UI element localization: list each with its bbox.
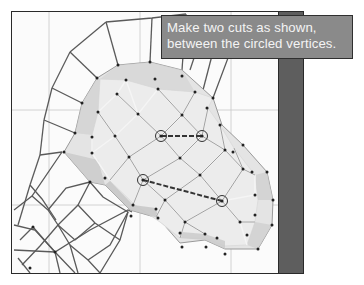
mesh-faces [64,62,273,249]
caption-line-2: between the circled vertices. [167,36,352,52]
caption-line-1: Make two cuts as shown, [167,20,352,36]
instruction-caption: Make two cuts as shown, between the circ… [161,15,353,59]
